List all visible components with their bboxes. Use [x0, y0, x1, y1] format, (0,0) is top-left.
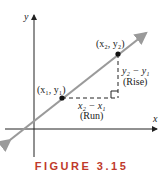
y-axis-label: y [24, 12, 28, 22]
slope-diagram [0, 0, 163, 179]
right-angle-marker [111, 91, 118, 98]
point-1 [59, 95, 64, 100]
point-1-label: (x₁, y₁) [37, 85, 66, 95]
point-2 [115, 51, 120, 56]
run-label: (Run) [80, 111, 103, 121]
rise-label: (Rise) [123, 77, 147, 87]
x-axis-label: x [153, 114, 157, 124]
figure-caption: FIGURE 3.15 [0, 160, 163, 172]
point-2-label: (x₂, y₂) [96, 39, 125, 49]
rise-expression: y₂ − y₁ [122, 66, 150, 76]
